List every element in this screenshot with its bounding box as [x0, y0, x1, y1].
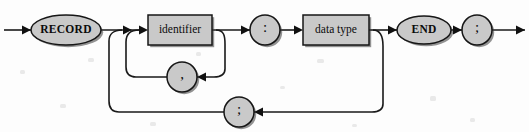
- node-record-keyword-label: RECORD: [40, 23, 92, 35]
- node-end-keyword-label: END: [411, 23, 436, 35]
- node-field-semicolon: ;: [224, 97, 256, 129]
- node-comma-separator-label: ,: [180, 66, 184, 82]
- node-colon-label: :: [263, 19, 267, 35]
- node-field-semicolon-label: ;: [237, 101, 241, 117]
- node-end-keyword: END: [397, 16, 453, 46]
- arrowhead-into-semicolon: [453, 25, 462, 34]
- scan-speck-1: [196, 52, 201, 56]
- node-identifier: identifier: [148, 15, 214, 47]
- scan-speck-2: [317, 59, 324, 63]
- node-data-type: data type: [303, 15, 371, 47]
- arrowhead-into-datatype: [294, 25, 303, 34]
- scan-speck-8: [352, 124, 357, 127]
- syntax-diagram-root: RECORDidentifier:data typeEND;,;: [0, 0, 529, 132]
- arrowhead-into-identifier: [139, 25, 148, 34]
- arrowhead-entry: [22, 25, 31, 34]
- scan-speck-3: [430, 96, 436, 101]
- arrowhead-loop-merge-outer: [123, 25, 132, 34]
- scan-speck-5: [60, 104, 66, 108]
- railroad-diagram-canvas: RECORDidentifier:data typeEND;,;: [0, 0, 529, 132]
- node-record-keyword: RECORD: [31, 15, 103, 47]
- arrowhead-into-colon: [241, 25, 250, 34]
- node-statement-semicolon-label: ;: [475, 19, 479, 35]
- arrowhead-into-end: [388, 25, 397, 34]
- scan-speck-0: [88, 58, 94, 62]
- scan-speck-4: [470, 118, 475, 122]
- node-statement-semicolon: ;: [462, 15, 494, 47]
- node-identifier-label: identifier: [159, 23, 201, 35]
- node-data-type-label: data type: [315, 23, 357, 36]
- node-colon: :: [250, 15, 282, 47]
- arrowhead-exit: [516, 25, 525, 34]
- node-comma-separator: ,: [167, 62, 199, 94]
- scan-speck-7: [150, 122, 156, 126]
- scan-speck-6: [280, 86, 285, 89]
- scan-speck-9: [20, 70, 25, 74]
